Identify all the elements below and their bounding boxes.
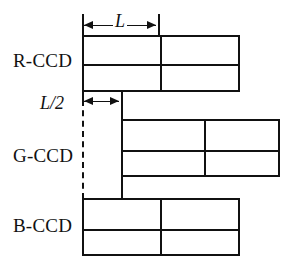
dim-l-left-arrowhead [84, 21, 93, 29]
dim-l-half-left-arrowhead [84, 97, 93, 105]
dim-l-half-right-arrowhead [110, 97, 119, 105]
row-label-g-ccd: G-CCD [13, 145, 73, 167]
ccd-stagger-diagram: R-CCD G-CCD B-CCD L L/2 [0, 0, 295, 278]
row-label-r-ccd: R-CCD [13, 50, 72, 72]
ccd-box-g-ccd-vertical-divider [204, 121, 206, 175]
ccd-box-b-ccd-vertical-divider [160, 200, 162, 254]
ccd-box-b-ccd [82, 198, 240, 256]
alignment-reference-dashed-line [82, 100, 84, 199]
dim-label-l: L [113, 11, 127, 32]
dim-l-right-extension-tick [158, 14, 160, 36]
ccd-box-g-ccd [121, 119, 280, 177]
g-ccd-left-stem-line [121, 92, 123, 199]
ccd-box-r-ccd [82, 35, 240, 92]
ccd-box-g-ccd-horizontal-divider [123, 150, 278, 152]
dim-l-right-arrowhead [147, 21, 156, 29]
row-label-b-ccd: B-CCD [13, 215, 72, 237]
dim-label-l-half: L/2 [38, 93, 66, 114]
ccd-box-r-ccd-vertical-divider [160, 37, 162, 90]
